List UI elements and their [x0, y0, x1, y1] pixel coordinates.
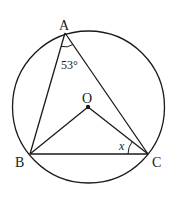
segment-ab — [30, 33, 65, 154]
geometry-diagram: A B C O 53° x — [0, 0, 175, 197]
segment-oc — [88, 107, 148, 154]
label-o: O — [82, 91, 92, 106]
segment-ob — [30, 107, 88, 154]
label-b: B — [15, 155, 24, 170]
label-angle-a: 53° — [61, 58, 78, 72]
angle-arc-c — [128, 142, 132, 154]
diagram-canvas: A B C O 53° x — [0, 0, 175, 197]
label-c: C — [152, 155, 161, 170]
label-a: A — [59, 18, 70, 33]
angle-arc-a — [61, 45, 73, 47]
label-angle-x: x — [118, 139, 125, 153]
segment-ac — [65, 33, 148, 154]
